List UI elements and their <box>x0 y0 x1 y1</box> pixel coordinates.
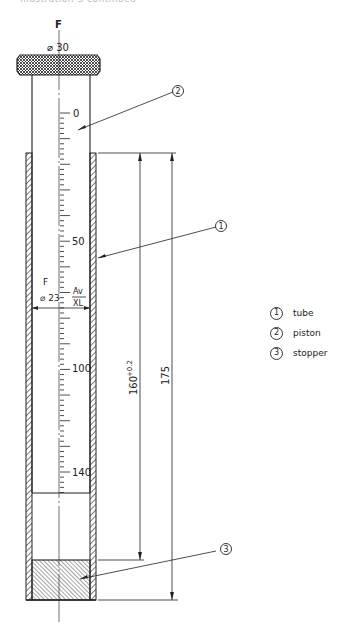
parts-legend: 1 tube 2 piston 3 stopper <box>270 303 327 363</box>
svg-text:1: 1 <box>218 222 223 231</box>
svg-text:3: 3 <box>223 545 228 554</box>
force-label-mid: F <box>43 277 48 287</box>
cap-diameter-label: ⌀ 30 <box>47 42 69 53</box>
force-label-top: F <box>55 19 62 30</box>
bore-diameter-label: ⌀ 23 <box>40 293 60 303</box>
callout-leaders <box>78 92 216 579</box>
tube <box>26 153 96 600</box>
legend-item-stopper: 3 stopper <box>270 343 327 363</box>
callout-3: 3 <box>221 544 232 555</box>
legend-num: 2 <box>270 327 283 340</box>
legend-label: piston <box>293 323 321 343</box>
scale-label-50: 50 <box>72 236 85 247</box>
scale-ticks <box>60 113 70 493</box>
legend-num: 1 <box>270 307 283 320</box>
piston <box>32 75 90 493</box>
legend-num: 3 <box>270 347 283 360</box>
scale-label-0: 0 <box>73 108 79 119</box>
dim-175-label: 175 <box>160 366 171 385</box>
fit-lower: XL <box>73 299 83 308</box>
stopper <box>32 560 90 600</box>
svg-text:175: 175 <box>160 366 171 385</box>
svg-text:+0.2: +0.2 <box>126 360 134 377</box>
callout-1: 1 <box>216 221 227 232</box>
scale-label-140: 140 <box>72 467 91 478</box>
legend-label: tube <box>293 303 313 323</box>
legend-label: stopper <box>293 343 327 363</box>
legend-item-piston: 2 piston <box>270 323 327 343</box>
legend-item-tube: 1 tube <box>270 303 327 323</box>
fit-upper: Av <box>73 287 83 296</box>
piston-cap <box>17 55 100 75</box>
dim-160-label: 160 +0.2 <box>126 360 139 395</box>
svg-text:160: 160 <box>128 376 139 395</box>
svg-text:2: 2 <box>175 87 180 96</box>
callout-2: 2 <box>173 86 184 97</box>
scale-label-100: 100 <box>72 363 91 374</box>
